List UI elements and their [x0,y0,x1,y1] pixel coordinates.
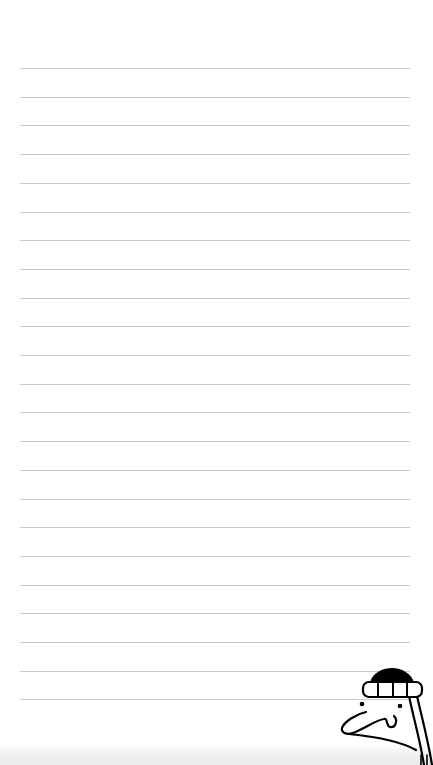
ruled-line [20,125,410,126]
right-eye-icon [398,704,403,709]
ruled-line [20,384,410,385]
ruled-line [20,585,410,586]
ruled-line [20,212,410,213]
left-eye-icon [360,702,365,707]
ruled-line [20,183,410,184]
ruled-line [20,97,410,98]
lined-notepad-page [0,0,433,765]
ruled-line [20,298,410,299]
ruled-line [20,527,410,528]
ruled-line [20,412,410,413]
ruled-line [20,441,410,442]
ruled-line [20,355,410,356]
ruled-line [20,269,410,270]
cartoon-man-with-beanie-icon [330,660,433,765]
ruled-line [20,68,410,69]
ruled-line [20,499,410,500]
ruled-line [20,326,410,327]
ruled-line [20,613,410,614]
ruled-line [20,556,410,557]
ruled-line [20,470,410,471]
ruled-line [20,154,410,155]
ruled-line [20,642,410,643]
ruled-line [20,240,410,241]
